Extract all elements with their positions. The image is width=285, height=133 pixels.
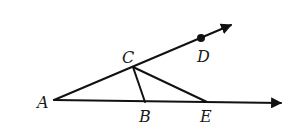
point-d-dot (197, 34, 205, 42)
label-a: A (35, 93, 49, 112)
label-c: C (122, 48, 134, 67)
geometry-diagram: A C D B E (0, 0, 285, 133)
label-e: E (199, 107, 212, 126)
label-b: B (138, 107, 151, 126)
label-d: D (196, 47, 210, 66)
ray-ae (54, 100, 281, 103)
